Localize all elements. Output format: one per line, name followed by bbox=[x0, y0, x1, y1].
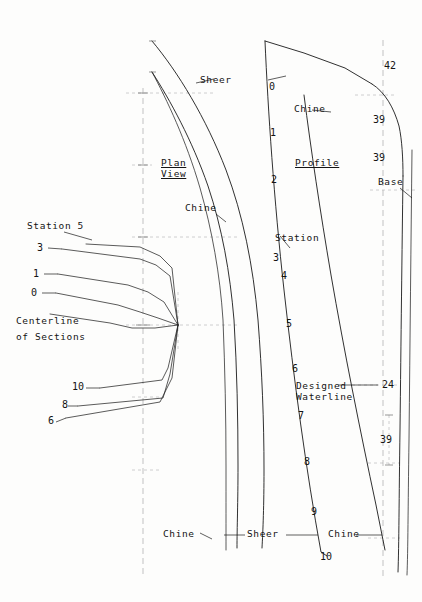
section-number-8: 8 bbox=[62, 399, 68, 410]
station-number-5: 5 bbox=[286, 318, 292, 329]
section-line-5 bbox=[86, 244, 178, 325]
sheer-leader-plan-right bbox=[268, 76, 286, 80]
label-designed-waterline-line2: Waterline bbox=[296, 391, 353, 402]
dimension-39-lower: 39 bbox=[380, 434, 392, 445]
station5-leader bbox=[64, 232, 92, 240]
profile-station-line bbox=[265, 41, 327, 556]
station-number-6: 6 bbox=[292, 363, 298, 374]
label-base: Base bbox=[378, 176, 403, 187]
section-number-6: 6 bbox=[48, 415, 54, 426]
label-designed-waterline-line1: Designed bbox=[296, 380, 347, 391]
label-profile-title: Profile bbox=[295, 157, 339, 168]
station-number-7: 7 bbox=[298, 410, 304, 421]
section-number-3: 3 bbox=[37, 242, 43, 253]
section-number-1: 1 bbox=[33, 268, 39, 279]
label-of-sections: of Sections bbox=[16, 331, 86, 342]
station-number-3: 3 bbox=[273, 252, 279, 263]
station-number-1: 1 bbox=[270, 127, 276, 138]
label-profile-chine-bottom: Chine bbox=[328, 528, 360, 539]
label-sections-underlined: Sections bbox=[35, 331, 86, 342]
section-line-3 bbox=[62, 249, 178, 325]
station-number-2: 2 bbox=[271, 174, 277, 185]
base-leader bbox=[400, 188, 412, 198]
label-of-prefix: of bbox=[16, 331, 35, 342]
label-profile-chine: Chine bbox=[294, 103, 326, 114]
station-number-10: 10 bbox=[320, 551, 332, 562]
profile-view-group bbox=[265, 40, 418, 580]
station-number-9: 9 bbox=[311, 506, 317, 517]
station3-leader bbox=[48, 248, 62, 249]
drawing-sheet: .ln{fill:none;stroke:#1a1a1a;stroke-widt… bbox=[0, 0, 422, 602]
label-plan-view-line1: Plan bbox=[161, 157, 186, 168]
sections-view-group bbox=[42, 232, 178, 422]
label-centerline: Centerline bbox=[16, 315, 79, 326]
plan-chine-curve-outer bbox=[152, 72, 238, 548]
section-number-0: 0 bbox=[31, 287, 37, 298]
label-plan-chine: Chine bbox=[185, 202, 217, 213]
station-number-8: 8 bbox=[304, 456, 310, 467]
chine-leader-plan-bottom bbox=[200, 533, 212, 539]
section-number-10: 10 bbox=[72, 381, 84, 392]
label-plan-sheer-bottom: Sheer bbox=[247, 528, 279, 539]
dimension-42: 42 bbox=[384, 60, 396, 71]
dimension-39-mid: 39 bbox=[373, 152, 385, 163]
station6-leader bbox=[56, 418, 66, 422]
label-plan-chine-bottom: Chine bbox=[163, 528, 195, 539]
plan-sheer-curve bbox=[152, 41, 264, 548]
profile-sheer-line bbox=[265, 41, 372, 84]
plan-view-group bbox=[126, 41, 318, 575]
label-plan-view-line2: View bbox=[161, 168, 186, 179]
station-number-0: 0 bbox=[269, 81, 275, 92]
profile-outer-right-line bbox=[407, 150, 412, 575]
section-line-10 bbox=[100, 325, 178, 388]
label-station-5: Station 5 bbox=[27, 220, 84, 231]
dimension-39-upper: 39 bbox=[373, 114, 385, 125]
lines-plan-svg: .ln{fill:none;stroke:#1a1a1a;stroke-widt… bbox=[0, 0, 422, 602]
station-number-4: 4 bbox=[281, 270, 287, 281]
profile-keel-line bbox=[398, 176, 403, 572]
dimension-24: 24 bbox=[382, 379, 394, 390]
label-profile-station: Station bbox=[275, 232, 319, 243]
label-plan-sheer: Sheer bbox=[200, 74, 232, 85]
section-line-8 bbox=[78, 325, 178, 406]
